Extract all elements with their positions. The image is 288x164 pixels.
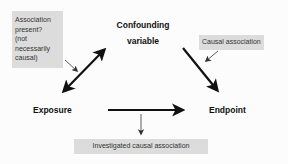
bidirectional-arrow-exposure-confounder [64, 50, 104, 91]
node-endpoint: Endpoint [209, 103, 246, 117]
node-confounding-line2: variable [112, 34, 174, 48]
node-confounding-variable: Confounding variable [112, 18, 174, 48]
node-confounding-line1: Confounding [112, 18, 174, 32]
arrow-confounder-to-endpoint [183, 48, 217, 90]
note-association-present: Association present? (not necessarily ca… [12, 11, 63, 68]
node-exposure: Exposure [33, 103, 72, 117]
note-association-line5: causal) [15, 53, 60, 63]
note-association-line4: necessarily [15, 44, 60, 54]
note-association-line3: (not [15, 34, 60, 44]
pointer-arrow-causal-note [206, 51, 218, 61]
note-association-line1: Association [15, 15, 60, 25]
note-causal-association: Causal association [199, 35, 264, 50]
note-investigated-causal-association: Investigated causal association [74, 139, 208, 154]
pointer-arrow-association-note [65, 60, 77, 71]
note-association-line2: present? [15, 25, 60, 35]
